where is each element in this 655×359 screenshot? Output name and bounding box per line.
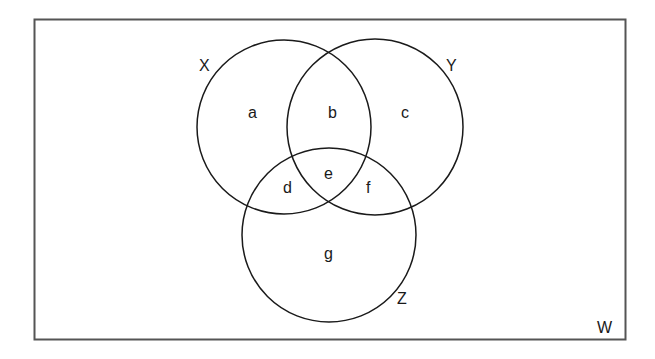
universe-label: W xyxy=(597,319,613,336)
region-a-label: a xyxy=(248,104,257,121)
region-c-label: c xyxy=(401,104,409,121)
region-b-label: b xyxy=(328,104,337,121)
region-d-label: d xyxy=(283,179,292,196)
set-x-label: X xyxy=(199,57,210,74)
set-y-label: Y xyxy=(446,57,457,74)
set-z-label: Z xyxy=(397,290,407,307)
region-f-label: f xyxy=(366,179,371,196)
region-e-label: e xyxy=(324,165,333,182)
venn-diagram: X Y Z W a b c d e f g xyxy=(0,0,655,359)
set-y-circle xyxy=(287,39,463,215)
region-g-label: g xyxy=(324,245,333,262)
